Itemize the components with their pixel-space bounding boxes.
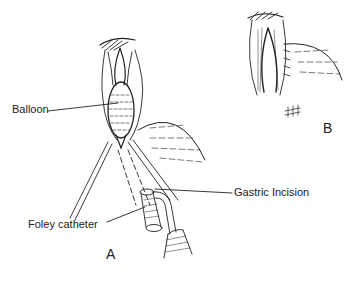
- panel-b-drawing: [248, 12, 342, 117]
- gastric-incision-leader-line: [155, 189, 232, 193]
- panel-label-a: A: [106, 246, 115, 262]
- foley-catheter-leader-line: [107, 207, 145, 222]
- label-gastric-incision: Gastric Incision: [234, 186, 309, 198]
- illustration: [0, 0, 355, 282]
- label-foley-catheter: Foley catheter: [28, 218, 98, 230]
- panel-label-b: B: [323, 120, 332, 136]
- label-balloon: Balloon: [12, 103, 49, 115]
